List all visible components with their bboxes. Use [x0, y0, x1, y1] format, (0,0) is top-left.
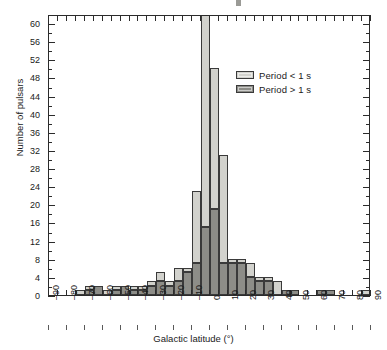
x-axis-tick-label: 90: [374, 290, 383, 300]
x-axis-tick-label: –60: [106, 285, 115, 300]
x-tick-outer: [370, 325, 371, 330]
y-tick-right: [366, 160, 370, 161]
x-tick-bottom: [370, 290, 371, 296]
y-axis-tick-label: 44: [16, 93, 40, 102]
x-tick-outer: [245, 325, 246, 330]
x-tick-outer: [334, 325, 335, 330]
y-tick-right: [366, 178, 370, 179]
legend-swatch-long-period: [236, 85, 254, 93]
bar-segment-short-period: [201, 16, 210, 227]
y-tick-left: [48, 78, 55, 79]
y-tick-right: [366, 214, 370, 215]
legend-item-long-period: Period > 1 s: [236, 83, 311, 95]
bar-segment-short-period: [192, 191, 201, 264]
legend: Period < 1 s Period > 1 s: [236, 69, 311, 97]
bar-segment-short-period: [246, 263, 255, 277]
x-tick-top: [182, 15, 183, 21]
y-tick-left: [48, 51, 52, 52]
y-tick-right: [366, 51, 370, 52]
y-axis-tick-label: 48: [16, 74, 40, 83]
x-tick-bottom: [48, 290, 49, 296]
y-tick-left: [48, 106, 52, 107]
x-tick-outer: [173, 325, 174, 330]
y-tick-left: [48, 242, 55, 243]
y-axis-tick-label: 16: [16, 219, 40, 228]
y-tick-right: [363, 205, 370, 206]
x-tick-top: [281, 15, 282, 21]
y-tick-right: [363, 242, 370, 243]
x-tick-top: [352, 15, 353, 21]
x-tick-outer: [66, 325, 67, 330]
x-tick-bottom: [191, 290, 192, 296]
y-axis-tick-label: 60: [16, 20, 40, 29]
x-tick-bottom: [298, 290, 299, 296]
x-tick-top: [370, 15, 371, 21]
bars-layer: [49, 16, 369, 295]
y-axis-tick-label: 56: [16, 38, 40, 47]
x-tick-top: [298, 15, 299, 21]
x-tick-top: [209, 15, 210, 21]
plot-area: [48, 15, 370, 296]
x-tick-outer: [137, 325, 138, 330]
x-tick-bottom: [84, 290, 85, 296]
y-tick-left: [48, 60, 55, 61]
y-tick-left: [48, 196, 52, 197]
bar-segment-short-period: [264, 277, 273, 282]
bar-segment-short-period: [255, 277, 264, 282]
histogram-bar: [210, 68, 219, 295]
y-tick-right: [366, 33, 370, 34]
legend-label-long-period: Period > 1 s: [259, 84, 311, 95]
x-tick-top: [227, 15, 228, 21]
x-tick-bottom: [263, 290, 264, 296]
y-tick-right: [363, 78, 370, 79]
x-tick-top: [164, 15, 165, 21]
legend-swatch-short-period: [236, 71, 254, 79]
y-axis-tick-label: 28: [16, 165, 40, 174]
x-axis-tick-label: –70: [88, 285, 97, 300]
y-tick-right: [363, 169, 370, 170]
x-tick-top: [120, 15, 121, 21]
y-tick-right: [366, 269, 370, 270]
x-tick-top: [129, 15, 130, 21]
y-tick-right: [366, 142, 370, 143]
y-tick-left: [48, 223, 55, 224]
x-tick-top: [93, 15, 94, 21]
x-axis-tick-label: –30: [159, 285, 168, 300]
x-axis-tick-label: –80: [70, 285, 79, 300]
x-tick-bottom: [227, 290, 228, 296]
x-tick-top: [290, 15, 291, 21]
y-tick-right: [366, 287, 370, 288]
y-tick-left: [48, 33, 52, 34]
y-tick-right: [363, 42, 370, 43]
y-tick-left: [48, 178, 52, 179]
x-axis-tick-label: –10: [195, 285, 204, 300]
x-axis-tick-label: 10: [231, 290, 240, 300]
x-axis-tick-label: 80: [356, 290, 365, 300]
y-tick-left: [48, 187, 55, 188]
x-axis-tick-label: 20: [249, 290, 258, 300]
x-tick-bottom: [120, 290, 121, 296]
y-tick-left: [48, 205, 55, 206]
x-axis-tick-label: 60: [320, 290, 329, 300]
cropped-title-mark: [236, 0, 241, 6]
x-tick-bottom: [245, 290, 246, 296]
y-tick-left: [48, 97, 55, 98]
x-axis-tick-label: –20: [177, 285, 186, 300]
y-tick-right: [363, 60, 370, 61]
x-tick-outer: [102, 325, 103, 330]
x-tick-bottom: [102, 290, 103, 296]
bar-segment-short-period: [174, 268, 183, 282]
y-tick-left: [48, 151, 55, 152]
x-tick-bottom: [173, 290, 174, 296]
x-tick-top: [48, 15, 49, 21]
y-tick-left: [48, 124, 52, 125]
bar-segment-short-period: [183, 268, 192, 273]
x-tick-outer: [227, 325, 228, 330]
x-tick-outer: [263, 325, 264, 330]
y-tick-right: [363, 133, 370, 134]
x-axis-tick-label: –90: [52, 285, 61, 300]
x-axis-title: Galactic latitude (°): [0, 333, 387, 344]
x-tick-outer: [48, 325, 49, 330]
y-tick-left: [48, 133, 55, 134]
x-tick-top: [173, 15, 174, 21]
